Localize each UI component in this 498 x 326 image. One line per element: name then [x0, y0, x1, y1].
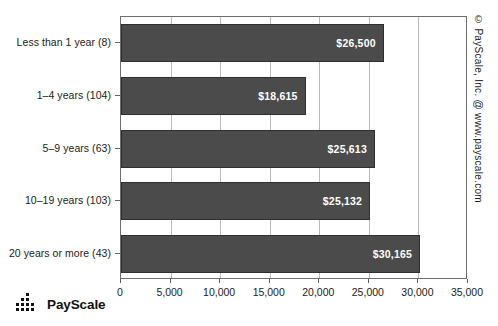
payscale-logo-text: PayScale — [47, 297, 106, 312]
bar-value-label: $18,615 — [258, 90, 304, 102]
category-label: 20 years or more (43) — [9, 247, 111, 259]
bar-value-label: $25,613 — [328, 143, 374, 155]
x-tick-mark — [318, 279, 319, 283]
x-tick-label: 30,000 — [401, 286, 433, 298]
x-axis: 05,00010,00015,00020,00025,00030,00035,0… — [120, 279, 467, 309]
x-tick-label: 25,000 — [352, 286, 384, 298]
category-label: Less than 1 year (8) — [17, 36, 111, 48]
bar: $30,165 — [121, 235, 420, 273]
bar-value-label: $26,500 — [336, 37, 382, 49]
x-tick-label: 20,000 — [302, 286, 334, 298]
bar-value-label: $30,165 — [373, 248, 419, 260]
x-tick-mark — [417, 279, 418, 283]
category-label: 5–9 years (63) — [43, 142, 111, 154]
x-tick-mark — [170, 279, 171, 283]
dot-matrix-bars-icon — [16, 292, 42, 314]
plot-area: $26,500$18,615$25,613$25,132$30,165 — [120, 16, 467, 279]
bar: $25,613 — [121, 130, 375, 168]
x-tick-mark — [269, 279, 270, 283]
x-tick-mark — [467, 279, 468, 283]
category-label: 10–19 years (103) — [25, 194, 111, 206]
x-tick-label: 10,000 — [203, 286, 235, 298]
category-label: 1–4 years (104) — [37, 89, 111, 101]
x-tick-mark — [120, 279, 121, 283]
bar: $26,500 — [121, 24, 384, 62]
x-tick-label: 35,000 — [451, 286, 483, 298]
category-axis: Less than 1 year (8)1–4 years (104)5–9 y… — [0, 16, 120, 279]
x-tick-mark — [219, 279, 220, 283]
bar-value-label: $25,132 — [323, 195, 369, 207]
copyright-text: © PayScale, Inc. @ www.payscale.com — [468, 14, 484, 244]
x-tick-label: 15,000 — [253, 286, 285, 298]
x-tick-label: 0 — [117, 286, 123, 298]
x-tick-label: 5,000 — [156, 286, 182, 298]
bar-chart: Less than 1 year (8)1–4 years (104)5–9 y… — [0, 0, 498, 326]
x-tick-mark — [368, 279, 369, 283]
bar: $18,615 — [121, 77, 306, 115]
bar: $25,132 — [121, 182, 370, 220]
payscale-logo: PayScale — [16, 290, 106, 314]
